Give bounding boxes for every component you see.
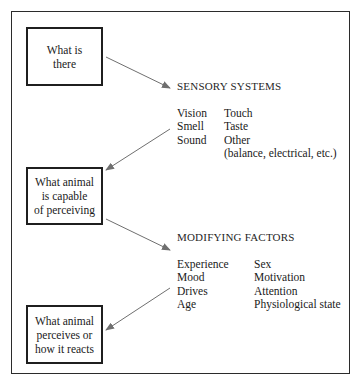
box-what-animal-perceives-or-how-it-reacts: What animal perceives or how it reacts — [26, 305, 103, 364]
sensory-item-touch: Touch — [224, 107, 337, 120]
modifying-item-experience: Experience — [177, 258, 254, 271]
sensory-item-other: Other — [224, 134, 337, 147]
modifying-item-mood: Mood — [177, 271, 254, 284]
box-perceives-line-1: What animal — [35, 314, 94, 328]
box-what-is-there-line-1: What is — [47, 43, 82, 57]
box-capable-line-2: is capable — [42, 189, 88, 203]
modifying-item-drives: Drives — [177, 285, 254, 298]
sensory-item-other-note: (balance, electrical, etc.) — [224, 147, 337, 160]
sensory-item-taste: Taste — [224, 120, 337, 133]
box-what-is-there-line-2: there — [53, 57, 76, 71]
sensory-item-sound: Sound — [177, 134, 224, 147]
box-capable-line-3: of perceiving — [34, 203, 95, 217]
box-what-is-there: What is there — [26, 27, 103, 86]
modifying-item-motivation: Motivation — [254, 271, 341, 284]
modifying-item-age: Age — [177, 298, 254, 311]
modifying-item-attention: Attention — [254, 285, 341, 298]
box-capable-line-1: What animal — [35, 175, 94, 189]
box-perceives-line-3: how it reacts — [35, 342, 94, 356]
sensory-item-vision: Vision — [177, 107, 224, 120]
box-what-animal-is-capable-of-perceiving: What animal is capable of perceiving — [26, 167, 103, 225]
modifying-item-physiological-state: Physiological state — [254, 298, 341, 311]
box-perceives-line-2: perceives or — [37, 328, 93, 342]
heading-modifying-factors: MODIFYING FACTORS — [177, 231, 295, 243]
heading-sensory-systems: SENSORY SYSTEMS — [177, 80, 281, 92]
modifying-item-sex: Sex — [254, 258, 341, 271]
list-sensory-systems: Vision Touch Smell Taste Sound Other (ba… — [177, 107, 337, 161]
list-modifying-factors: Experience Sex Mood Motivation Drives At… — [177, 258, 341, 312]
sensory-item-smell: Smell — [177, 120, 224, 133]
diagram-canvas: What is there What animal is capable of … — [0, 0, 362, 386]
